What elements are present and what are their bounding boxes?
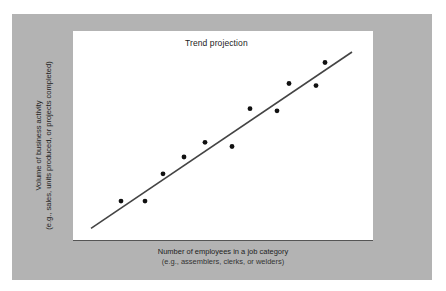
data-point	[203, 140, 208, 145]
data-point	[275, 108, 280, 113]
trend-line	[91, 52, 352, 228]
y-axis-subtitle: (e.g., sales, units produced, or project…	[43, 41, 53, 251]
y-axis-label: Volume of business activity (e.g., sales…	[34, 41, 53, 251]
data-point	[323, 60, 328, 65]
data-point	[230, 144, 235, 149]
data-points	[119, 60, 328, 203]
data-point	[314, 83, 319, 88]
x-axis-label: Number of employees in a job category (e…	[73, 247, 373, 266]
y-axis-title: Volume of business activity	[34, 41, 44, 251]
data-point	[248, 106, 253, 111]
x-axis-title: Number of employees in a job category	[73, 247, 373, 257]
chart-title: Trend projection	[185, 38, 248, 48]
data-point	[182, 155, 187, 160]
data-point	[287, 81, 292, 86]
data-point	[161, 171, 166, 176]
x-axis-subtitle: (e.g., assemblers, clerks, or welders)	[73, 257, 373, 267]
data-point	[143, 199, 148, 204]
data-point	[119, 199, 124, 204]
